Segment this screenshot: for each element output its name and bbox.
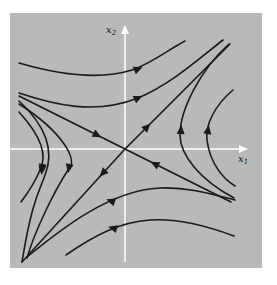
phase-portrait-diagram: x1 x2 [0, 0, 277, 285]
plot-panel [10, 13, 262, 268]
